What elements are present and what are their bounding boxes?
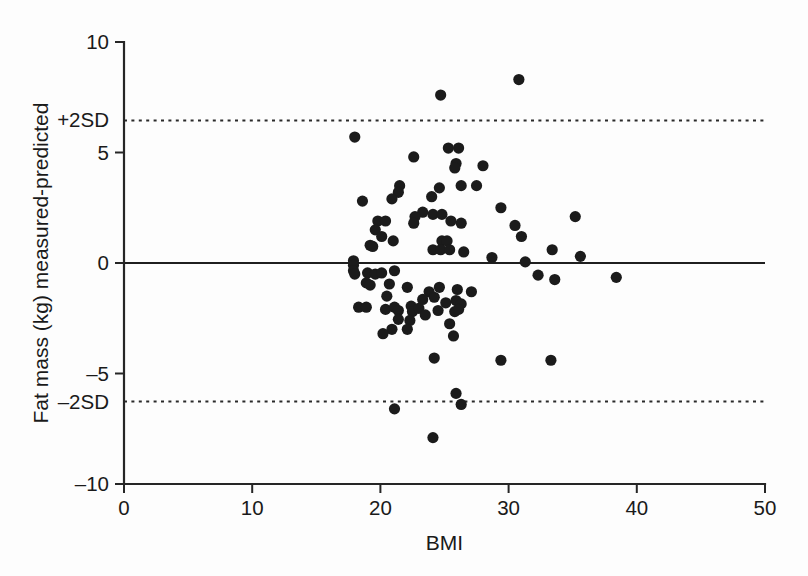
data-point	[367, 241, 378, 252]
data-point	[434, 182, 445, 193]
axis-labels-group: 1050–5–10+2SD–2SD01020304050BMIFat mass …	[29, 30, 776, 554]
data-point	[456, 218, 467, 229]
x-tick-label: 30	[497, 496, 520, 519]
data-point	[357, 196, 368, 207]
data-point	[402, 324, 413, 335]
data-point	[376, 231, 387, 242]
data-point	[380, 215, 391, 226]
y-axis-title: Fat mass (kg) measured-predicted	[29, 103, 52, 424]
y-tick-label: 0	[98, 251, 109, 274]
x-tick-label: 40	[625, 496, 648, 519]
x-axis-title: BMI	[426, 531, 463, 554]
y-tick-label: 10	[86, 30, 109, 53]
data-point	[393, 314, 404, 325]
data-point	[429, 352, 440, 363]
data-point	[471, 180, 482, 191]
minus-2sd-label: –2SD	[58, 390, 109, 413]
data-point	[435, 89, 446, 100]
data-point	[384, 278, 395, 289]
data-point	[381, 291, 392, 302]
data-point	[420, 309, 431, 320]
data-point	[509, 220, 520, 231]
data-point	[361, 302, 372, 313]
x-tick-label: 50	[754, 496, 777, 519]
data-point	[516, 231, 527, 242]
axes-group	[115, 42, 765, 493]
data-point	[448, 330, 459, 341]
data-point	[513, 74, 524, 85]
data-point	[388, 235, 399, 246]
data-point	[547, 244, 558, 255]
scatter-plot-figure: 1050–5–10+2SD–2SD01020304050BMIFat mass …	[0, 0, 808, 576]
x-tick-label: 20	[369, 496, 392, 519]
data-point	[365, 280, 376, 291]
data-point	[445, 215, 456, 226]
data-point	[520, 256, 531, 267]
data-point	[436, 209, 447, 220]
data-point	[456, 399, 467, 410]
data-point	[456, 180, 467, 191]
data-point	[458, 246, 469, 257]
data-point	[444, 244, 455, 255]
data-point	[570, 211, 581, 222]
plot-canvas: 1050–5–10+2SD–2SD01020304050BMIFat mass …	[0, 0, 808, 576]
data-point	[453, 142, 464, 153]
data-points-group	[348, 74, 622, 443]
data-point	[449, 162, 460, 173]
data-point	[408, 151, 419, 162]
data-point	[434, 282, 445, 293]
y-tick-label: –5	[86, 362, 109, 385]
data-point	[466, 286, 477, 297]
data-point	[402, 282, 413, 293]
x-tick-label: 10	[241, 496, 264, 519]
data-point	[427, 432, 438, 443]
data-point	[450, 388, 461, 399]
data-point	[444, 318, 455, 329]
data-point	[376, 267, 387, 278]
data-point	[452, 284, 463, 295]
data-point	[549, 274, 560, 285]
reference-lines-group	[124, 120, 765, 401]
y-tick-label: –10	[75, 472, 109, 495]
data-point	[377, 328, 388, 339]
data-point	[429, 292, 440, 303]
data-point	[575, 251, 586, 262]
data-point	[389, 403, 400, 414]
data-point	[443, 142, 454, 153]
data-point	[349, 268, 360, 279]
y-tick-label: 5	[98, 141, 109, 164]
data-point	[432, 305, 443, 316]
data-point	[611, 272, 622, 283]
data-point	[426, 191, 437, 202]
data-point	[386, 193, 397, 204]
data-point	[389, 265, 400, 276]
data-point	[495, 202, 506, 213]
x-tick-label: 0	[118, 496, 129, 519]
data-point	[486, 252, 497, 263]
data-point	[532, 270, 543, 281]
data-point	[545, 355, 556, 366]
data-point	[495, 355, 506, 366]
plus-2sd-label: +2SD	[57, 108, 109, 131]
data-point	[453, 304, 464, 315]
data-point	[408, 218, 419, 229]
data-point	[477, 160, 488, 171]
data-point	[349, 131, 360, 142]
